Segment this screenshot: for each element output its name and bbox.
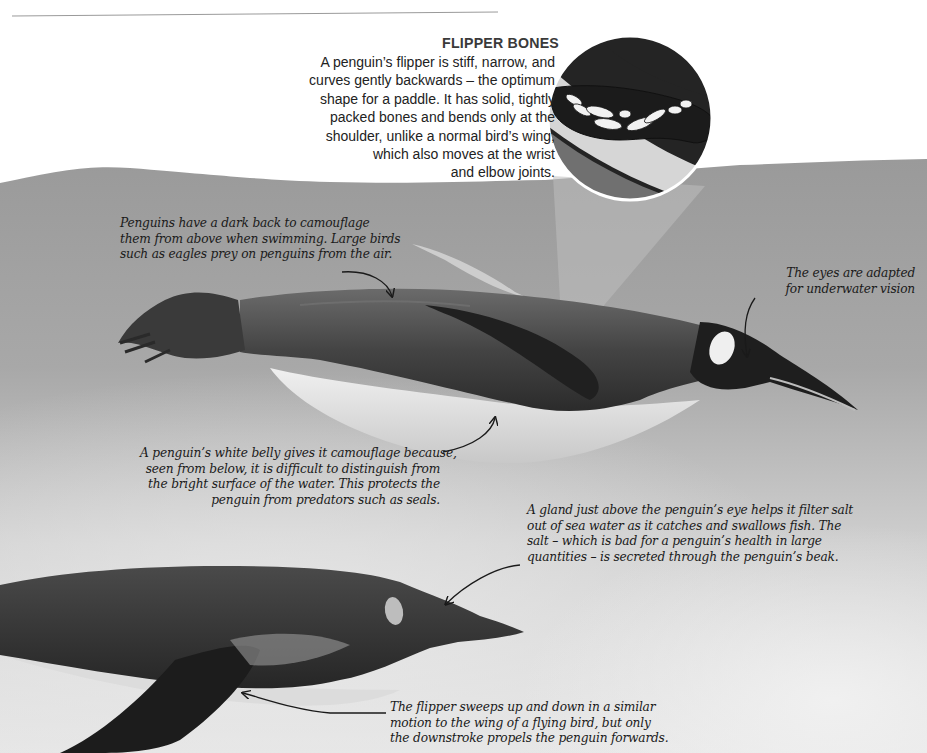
annotation-line: salt – which is bad for a penguin’s heal… (527, 534, 857, 550)
annotation-line: for underwater vision (740, 282, 915, 298)
caption-line: and elbow joints. (255, 163, 555, 181)
annotation-line: Penguins have a dark back to camouflage (120, 216, 345, 232)
flipper-bones-description: A penguin’s flipper is stiff, narrow, an… (255, 53, 555, 182)
annotation-line: the downstroke propels the penguin forwa… (390, 731, 680, 747)
annotation-line: The flipper sweeps up and down in a simi… (390, 700, 680, 716)
caption-line: shape for a paddle. It has solid, tightl… (255, 90, 555, 108)
annotation-line: motion to the wing of a flying bird, but… (390, 716, 680, 732)
annotation-line: A penguin’s white belly gives it camoufl… (140, 446, 440, 462)
caption-line: shoulder, unlike a normal bird’s wing, (255, 127, 555, 145)
caption-line: packed bones and bends only at the (255, 108, 555, 126)
penguin-infographic-page: FLIPPER BONES A penguin’s flipper is sti… (0, 0, 927, 753)
caption-line: curves gently backwards – the optimum (255, 71, 555, 89)
annotation-line: out of sea water as it catches and swall… (527, 519, 857, 535)
caption-line: A penguin’s flipper is stiff, narrow, an… (255, 53, 555, 71)
annotation-line: The eyes are adapted (740, 266, 915, 282)
annotation-line: such as eagles prey on penguins from the… (120, 247, 345, 263)
annotation-line: A gland just above the penguin’s eye hel… (527, 503, 857, 519)
annotation-white-belly: A penguin’s white belly gives it camoufl… (140, 446, 440, 508)
flipper-bones-title: FLIPPER BONES (442, 35, 559, 51)
annotation-dark-back: Penguins have a dark back to camouflage … (120, 216, 345, 263)
annotation-salt-gland: A gland just above the penguin’s eye hel… (527, 503, 857, 565)
annotation-line: seen from below, it is difficult to dist… (140, 462, 440, 478)
top-rule (12, 12, 498, 16)
annotation-flipper-motion: The flipper sweeps up and down in a simi… (390, 700, 680, 747)
annotation-line: them from above when swimming. Large bir… (120, 232, 345, 248)
annotation-eyes: The eyes are adapted for underwater visi… (740, 266, 915, 297)
annotation-line: penguin from predators such as seals. (140, 493, 440, 509)
annotation-line: quantities – is secreted through the pen… (527, 550, 857, 566)
annotation-line: the bright surface of the water. This pr… (140, 477, 440, 493)
caption-line: which also moves at the wrist (255, 145, 555, 163)
